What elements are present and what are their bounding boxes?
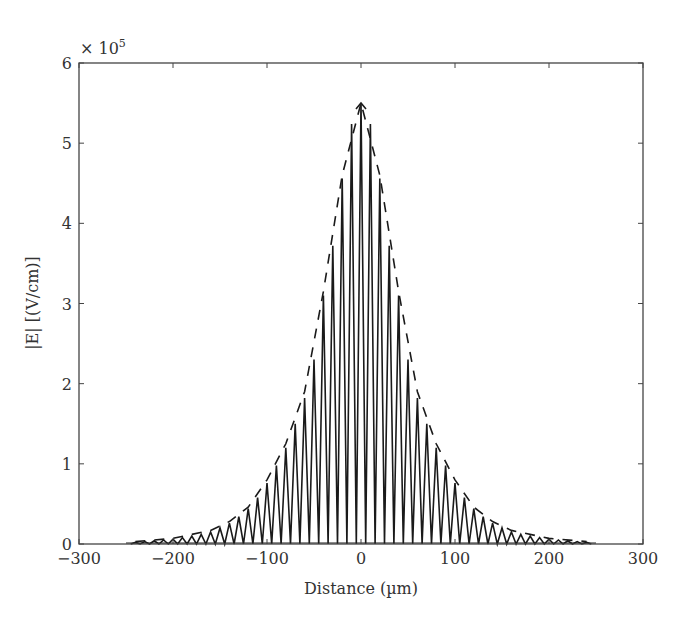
x-tick-label: 100 <box>440 549 471 568</box>
y-tick-label: 1 <box>62 455 72 474</box>
y-tick-label: 5 <box>62 134 72 153</box>
y-axis-label: |E| [(V/cm)] <box>23 256 42 350</box>
x-tick-label: 200 <box>534 549 565 568</box>
chart: −300−200−1000100200300 0123456 × 105 Dis… <box>0 0 691 626</box>
x-tick-labels: −300−200−1000100200300 <box>57 549 658 568</box>
y-tick-label: 2 <box>62 375 72 394</box>
x-tick-label: −100 <box>245 549 289 568</box>
y-tick-label: 0 <box>62 535 72 554</box>
x-axis-label: Distance (µm) <box>304 579 418 598</box>
x-tick-label: 300 <box>628 549 659 568</box>
y-tick-label: 6 <box>62 54 72 73</box>
x-tick-label: 0 <box>356 549 366 568</box>
y-multiplier-label: × 105 <box>80 37 126 58</box>
y-tick-labels: 0123456 <box>62 54 72 554</box>
x-tick-label: −200 <box>151 549 195 568</box>
field-spike-series <box>131 103 592 544</box>
plot-area <box>126 103 596 544</box>
y-tick-label: 3 <box>62 295 72 314</box>
y-tick-label: 4 <box>62 214 72 233</box>
